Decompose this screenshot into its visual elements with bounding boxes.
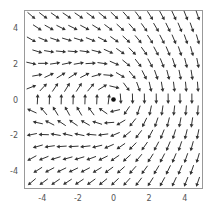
arrow-head-icon [178,101,182,104]
arrow-head-icon [196,136,200,140]
y-tick-label: 4 [13,24,18,33]
arrow-head-icon [86,50,90,54]
arrow-head-icon [196,159,200,163]
arrow-head-icon [149,88,153,92]
arrow-head-icon [178,124,182,128]
arrow-head-icon [48,94,52,97]
arrow-head-icon [83,94,87,97]
arrow-head-icon [104,121,108,125]
arrow-head-icon [166,101,170,104]
arrow-head-icon [62,157,66,161]
arrow-head-icon [59,94,63,97]
arrow-head-icon [184,112,188,116]
arrow-head-icon [39,50,43,54]
arrow-head-icon [184,88,188,92]
y-tick-label: -2 [10,131,18,140]
x-axis-ticks: -4-2024 [38,194,187,203]
arrow-head-icon [161,88,165,92]
arrow-head-icon [80,61,84,65]
arrow-head-icon [33,62,37,66]
x-tick-label: 2 [147,194,152,203]
arrow-head-icon [173,64,177,68]
x-tick-label: -4 [38,194,46,203]
y-tick-label: 2 [13,60,18,69]
arrow-head-icon [190,124,194,128]
arrow-head-icon [98,50,102,54]
arrow-head-icon [107,94,111,98]
arrow-head-icon [36,94,40,97]
arrow-head-icon [196,41,200,45]
arrow-head-icon [190,52,194,56]
arrow-head-icon [27,133,31,137]
arrow-head-icon [50,132,54,136]
arrow-head-icon [172,136,176,140]
arrow-head-icon [110,73,114,77]
arrow-head-icon [184,136,188,140]
vortex-center-marker [111,97,116,102]
arrow-head-icon [154,101,158,104]
quiver-plot: -4-2024 -4-2024 [0,0,216,206]
y-tick-label: -4 [10,167,18,176]
arrow-head-icon [39,133,42,137]
arrow-head-icon [160,112,164,116]
arrow-head-icon [39,73,43,77]
arrow-head-icon [190,147,194,151]
arrow-head-icon [172,88,176,92]
arrow-head-icon [116,86,120,90]
arrow-head-icon [196,65,200,69]
arrow-head-icon [33,145,37,149]
arrow-head-icon [68,61,72,65]
arrow-head-icon [178,76,182,80]
arrow-head-icon [75,50,79,54]
x-tick-label: 0 [111,194,116,203]
arrow-head-icon [68,145,72,149]
arrow-head-icon [74,132,78,136]
arrow-head-icon [131,101,135,104]
arrow-head-icon [86,133,90,137]
arrow-head-icon [98,73,102,77]
arrow-head-icon [57,61,61,65]
arrow-head-icon [63,50,67,54]
x-tick-label: 4 [182,194,187,203]
arrow-head-icon [71,94,75,97]
y-axis-ticks: -4-2024 [10,24,18,175]
arrow-head-icon [110,109,114,113]
arrow-head-icon [62,132,66,136]
arrow-head-icon [68,38,72,42]
arrow-head-icon [92,145,96,149]
arrow-head-icon [98,133,102,137]
arrow-head-icon [143,101,147,104]
arrow-head-icon [56,145,60,149]
arrow-head-icon [45,61,48,65]
arrow-head-icon [33,120,37,124]
arrow-head-icon [172,112,176,116]
arrow-head-icon [148,112,152,116]
arrow-head-icon [190,76,194,80]
arrow-head-icon [196,89,200,93]
arrow-head-icon [80,145,84,149]
arrow-head-icon [95,94,99,97]
arrow-head-icon [196,112,200,116]
arrow-head-icon [104,62,108,66]
arrow-head-icon [119,100,123,104]
arrow-head-icon [166,124,170,128]
arrow-head-icon [167,76,171,80]
arrow-head-icon [74,157,78,161]
arrow-head-icon [92,61,96,65]
arrow-head-icon [44,145,48,149]
arrow-head-icon [190,101,194,104]
arrow-head-icon [51,50,55,54]
y-tick-label: 0 [13,96,18,105]
x-tick-label: -2 [74,194,82,203]
arrow-head-icon [185,64,189,68]
